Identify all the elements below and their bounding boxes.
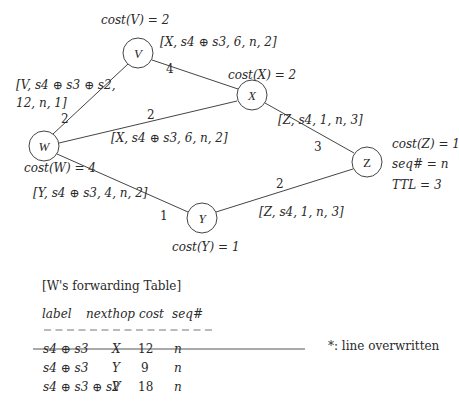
row-seq: n xyxy=(174,342,182,356)
row-cost: 9 xyxy=(141,361,149,375)
cost-label-w: cost(W) = 4 xyxy=(24,161,96,175)
message-x-to-v: [X, s4 ⊕ s3, 6, n, 2] xyxy=(160,35,277,49)
svg-text:Z: Z xyxy=(363,155,371,170)
cost-label-v: cost(V) = 2 xyxy=(101,13,169,27)
edge-weight-w-v: 2 xyxy=(61,112,69,126)
node-v: V xyxy=(123,38,153,68)
row-label: s4 ⊕ s3 xyxy=(43,342,88,356)
cost-label-y: cost(Y) = 1 xyxy=(172,240,240,254)
row-label: s4 ⊕ s3 ⊕ s2 xyxy=(43,380,120,394)
cost-label-z: cost(Z) = 1 xyxy=(392,137,459,151)
row-nexthop: X xyxy=(112,342,121,356)
svg-text:W: W xyxy=(39,139,51,154)
table-header-nexthop: nexthop xyxy=(86,307,135,321)
svg-text:X: X xyxy=(247,88,257,103)
row-nexthop: Y xyxy=(112,361,120,375)
node-w: W xyxy=(29,131,59,161)
seq-label-z: seq# = n xyxy=(392,157,448,171)
row-label: s4 ⊕ s3 xyxy=(43,361,88,375)
ttl-label-z: TTL = 3 xyxy=(392,178,442,192)
edge-weight-x-z: 3 xyxy=(314,140,322,154)
table-header-cost: cost xyxy=(139,307,164,321)
message-v-to-w-line2: 12, n, 1] xyxy=(16,96,67,110)
table-header-label: label xyxy=(42,307,72,321)
row-nexthop: V xyxy=(112,380,121,394)
cost-label-x: cost(X) = 2 xyxy=(228,68,296,82)
message-z-to-x: [Z, s4, 1, n, 3] xyxy=(278,113,363,127)
message-x-to-w: [X, s4 ⊕ s3, 6, n, 2] xyxy=(111,131,228,145)
table-header-seq: seq# xyxy=(172,307,203,321)
row-seq: n xyxy=(174,361,182,375)
edge-v-x xyxy=(152,60,238,89)
message-v-to-w-line1: [V, s4 ⊕ s3 ⊕ s2, xyxy=(16,78,115,92)
edge-x-z xyxy=(265,103,354,153)
edge-weight-v-x: 4 xyxy=(166,62,174,76)
message-z-to-y: [Z, s4, 1, n, 3] xyxy=(259,205,344,219)
row-cost: 12 xyxy=(138,342,153,356)
edge-weight-w-x: 2 xyxy=(147,108,155,122)
table-title: [W's forwarding Table] xyxy=(42,279,181,293)
edge-weight-y-z: 2 xyxy=(276,177,284,191)
node-y: Y xyxy=(187,203,217,233)
edge-weight-w-y: 1 xyxy=(160,209,168,223)
node-x: X xyxy=(237,80,267,110)
row-cost: 18 xyxy=(138,380,153,394)
message-y-to-w: [Y, s4 ⊕ s3, 4, n, 2] xyxy=(33,186,148,200)
node-z: Z xyxy=(352,147,382,177)
row-seq: n xyxy=(174,380,182,394)
footnote-line-overwritten: *: line overwritten xyxy=(328,339,439,353)
